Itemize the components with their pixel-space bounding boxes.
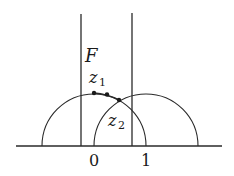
z1-subscript: 1: [99, 76, 106, 89]
tick-label-0: 0: [89, 151, 99, 170]
point-marker: [92, 91, 96, 95]
z2-label: z: [107, 111, 117, 130]
point-z2-marker: [117, 98, 121, 102]
tick-label-1: 1: [141, 151, 151, 170]
diagram-canvas: F z 1 z 2 0 1: [0, 0, 234, 176]
point-z1-marker: [105, 92, 109, 96]
z2-subscript: 2: [118, 119, 125, 132]
z1-label: z: [88, 68, 98, 87]
region-label-F: F: [84, 45, 99, 66]
